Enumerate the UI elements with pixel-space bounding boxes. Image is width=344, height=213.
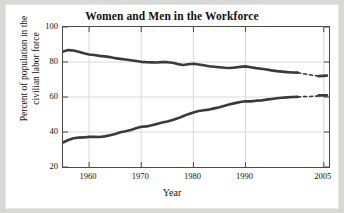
plot-svg <box>63 27 329 167</box>
y-tick-label: 20 <box>32 161 58 171</box>
chart-figure: Women and Men in the Workforce Percent o… <box>6 5 338 208</box>
x-tick-label: 2005 <box>303 171 343 181</box>
plot-area <box>62 26 330 168</box>
y-axis-label: Percent of population in the civilian la… <box>19 0 42 149</box>
series-line <box>319 76 327 77</box>
chart-title: Women and Men in the Workforce <box>6 10 338 22</box>
x-tick-label: 1980 <box>172 171 212 181</box>
x-tick-label: 1970 <box>120 171 160 181</box>
x-axis-label: Year <box>6 187 338 198</box>
x-tick-label: 1990 <box>225 171 265 181</box>
series-line <box>63 97 298 143</box>
y-axis-label-line2: civilian labor force <box>30 0 42 149</box>
series-line <box>63 50 298 73</box>
series-line <box>298 73 319 76</box>
y-axis-label-line1: Percent of population in the <box>19 0 31 149</box>
x-tick-label: 1960 <box>68 171 108 181</box>
